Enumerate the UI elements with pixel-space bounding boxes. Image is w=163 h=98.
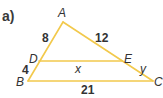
length-db-label: 4 xyxy=(22,64,29,76)
vertex-d-label: D xyxy=(29,53,38,65)
length-ad-label: 8 xyxy=(42,32,49,44)
vertex-b-label: B xyxy=(16,76,24,88)
vertex-c-label: C xyxy=(154,76,163,88)
triangle-figure: a) A D E B C 8 12 4 21 x y xyxy=(0,0,163,98)
part-label: a) xyxy=(2,9,14,23)
length-ec-label: y xyxy=(140,63,146,75)
length-de-label: x xyxy=(75,63,81,75)
length-ae-label: 12 xyxy=(95,32,108,44)
length-bc-label: 21 xyxy=(81,84,94,96)
vertex-e-label: E xyxy=(124,53,132,65)
vertex-a-label: A xyxy=(58,7,66,19)
